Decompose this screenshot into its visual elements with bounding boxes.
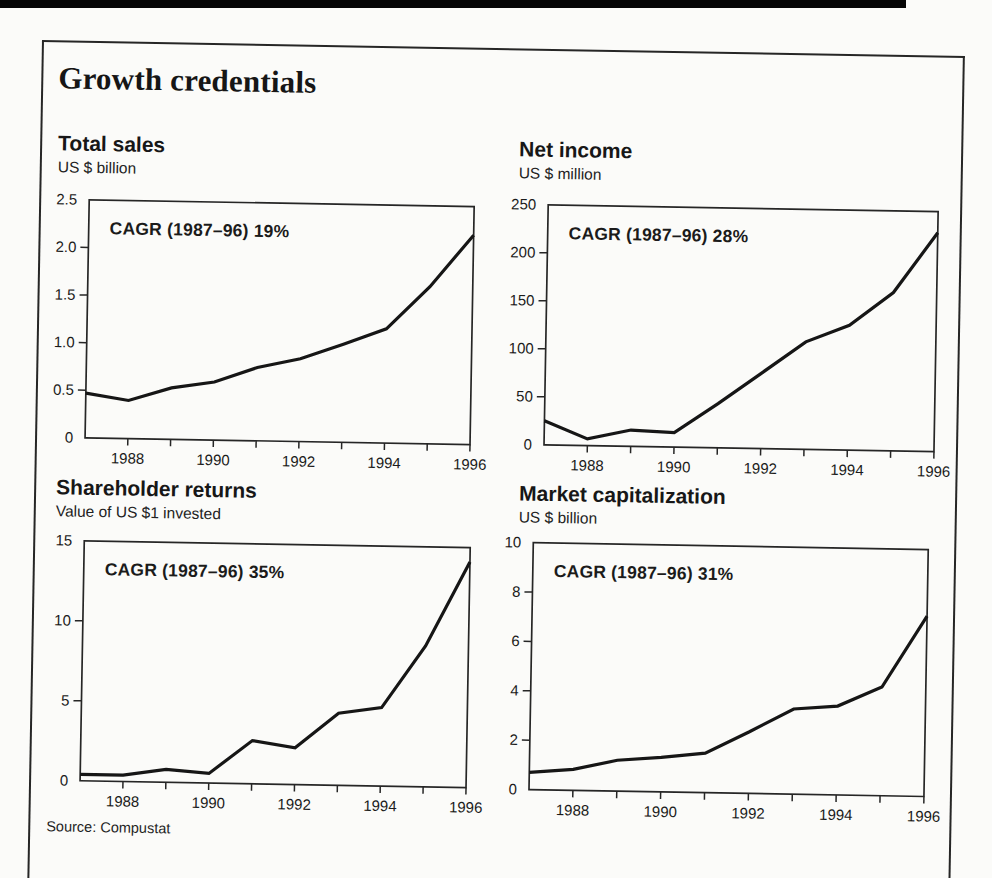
y-tick-label: 0 (60, 771, 69, 788)
x-tick-label: 1996 (453, 455, 487, 473)
line-chart-svg-market-capitalization: 024681019881990199219941996CAGR (1987–96… (478, 532, 952, 839)
x-tick-label: 1994 (363, 797, 397, 815)
x-tick-label: 1990 (657, 458, 691, 476)
x-tick-label: 1996 (449, 798, 483, 816)
chart-market-capitalization: 024681019881990199219941996CAGR (1987–96… (478, 532, 952, 843)
scanned-book-page: Growth credentials Total sales US $ bill… (0, 0, 992, 878)
x-tick-label: 1992 (743, 459, 777, 477)
chart-unit-market-capitalization: US $ billion (519, 508, 726, 530)
cagr-annotation: CAGR (1987–96) 28% (569, 223, 749, 246)
y-tick-label: 1.5 (55, 285, 76, 302)
y-tick-label: 100 (509, 339, 534, 356)
chart-shareholder-returns: 05101519881990199219941996CAGR (1987–96)… (29, 530, 494, 834)
x-tick-label: 1988 (556, 801, 590, 819)
chart-title-total-sales: Total sales (58, 132, 165, 155)
x-tick-label: 1994 (819, 806, 853, 824)
y-tick-label: 2.5 (56, 190, 77, 207)
y-tick-label: 250 (511, 195, 536, 212)
x-tick-label: 1988 (106, 792, 140, 810)
y-tick-label: 4 (510, 681, 519, 698)
y-tick-label: 0.5 (53, 381, 74, 398)
chart-total-sales: 00.51.01.52.02.519881990199219941996CAGR… (34, 189, 498, 491)
y-tick-label: 15 (55, 531, 72, 548)
y-tick-label: 0 (524, 435, 533, 452)
chart-unit-net-income: US $ million (519, 164, 633, 184)
cagr-annotation: CAGR (1987–96) 19% (110, 218, 290, 241)
x-tick-label: 1988 (570, 456, 604, 474)
chart-unit-shareholder-returns: Value of US $1 invested (56, 502, 257, 524)
x-tick-label: 1990 (196, 451, 230, 469)
y-tick-label: 1.0 (54, 333, 75, 350)
y-tick-label: 200 (510, 243, 535, 260)
line-chart-svg-net-income: 05010015020025019881990199219941996CAGR … (493, 194, 962, 494)
y-tick-label: 150 (509, 291, 534, 308)
y-tick-label: 8 (512, 583, 521, 600)
source-note: Source: Compustat (46, 818, 170, 836)
cagr-annotation: CAGR (1987–96) 35% (105, 559, 285, 582)
x-tick-label: 1992 (731, 804, 765, 822)
y-tick-label: 10 (54, 611, 71, 628)
y-tick-label: 10 (504, 533, 521, 550)
x-tick-label: 1994 (367, 454, 401, 472)
line-chart-svg-total-sales: 00.51.01.52.02.519881990199219941996CAGR… (34, 189, 498, 487)
x-tick-label: 1990 (192, 794, 226, 812)
chart-header-total-sales: Total sales US $ billion (58, 132, 166, 178)
y-tick-label: 0 (509, 780, 518, 797)
y-tick-label: 6 (511, 632, 520, 649)
line-chart-svg-shareholder-returns: 05101519881990199219941996CAGR (1987–96)… (29, 530, 494, 830)
page-title: Growth credentials (58, 60, 317, 101)
x-tick-label: 1996 (917, 462, 951, 480)
data-line-shareholder-returns (80, 555, 470, 781)
x-tick-label: 1992 (277, 795, 311, 813)
data-line-market-capitalization (529, 609, 927, 779)
x-tick-label: 1996 (907, 807, 941, 825)
data-line-total-sales (86, 228, 474, 406)
chart-header-net-income: Net income US $ million (519, 138, 633, 184)
y-tick-label: 2 (509, 731, 518, 748)
y-tick-label: 50 (516, 387, 533, 404)
x-tick-label: 1988 (111, 449, 145, 467)
chart-title-net-income: Net income (519, 138, 633, 161)
data-line-net-income (544, 226, 938, 445)
x-tick-label: 1992 (282, 452, 316, 470)
x-tick-label: 1994 (830, 461, 864, 479)
chart-net-income: 05010015020025019881990199219941996CAGR … (493, 194, 962, 498)
y-tick-label: 0 (65, 428, 74, 445)
y-tick-label: 2.0 (55, 238, 76, 255)
figure-box: Growth credentials Total sales US $ bill… (27, 40, 965, 878)
x-tick-label: 1990 (643, 803, 677, 821)
y-tick-label: 5 (61, 691, 70, 708)
page-top-black-rule (0, 0, 906, 8)
chart-unit-total-sales: US $ billion (58, 158, 165, 178)
cagr-annotation: CAGR (1987–96) 31% (554, 561, 734, 584)
